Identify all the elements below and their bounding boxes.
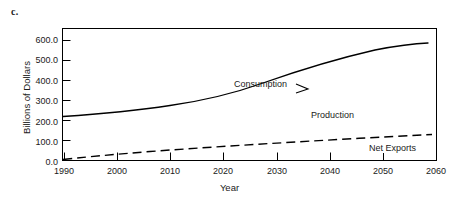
x-tick-label: 2040	[310, 166, 350, 176]
y-tick-label: 600.0	[16, 36, 58, 45]
plot-frame	[63, 29, 437, 161]
x-tick-label: 1990	[44, 166, 84, 176]
consumption-pointer-arrow	[296, 84, 308, 93]
x-tick-label: 2000	[97, 166, 137, 176]
chart-figure: c. Billions of Dollars 600.0 500.0 400.0…	[0, 0, 459, 201]
y-tick-label: 100.0	[16, 138, 58, 147]
x-tick-label: 2030	[257, 166, 297, 176]
y-tick-label: 300.0	[16, 97, 58, 106]
y-axis-ticks	[63, 41, 71, 161]
x-tick-label: 2020	[203, 166, 243, 176]
series-label-production: Production	[311, 110, 354, 120]
x-axis-title: Year	[0, 182, 459, 193]
y-tick-label: 500.0	[16, 56, 58, 65]
series-label-net-exports: Net Exports	[368, 143, 417, 153]
x-tick-label: 2010	[150, 166, 190, 176]
y-tick-label: 400.0	[16, 77, 58, 86]
series-label-consumption: Consumption	[234, 79, 287, 89]
y-tick-label: 200.0	[16, 118, 58, 127]
x-axis-ticks	[65, 153, 384, 161]
x-tick-label: 2050	[363, 166, 403, 176]
x-tick-label: 2060	[416, 166, 456, 176]
